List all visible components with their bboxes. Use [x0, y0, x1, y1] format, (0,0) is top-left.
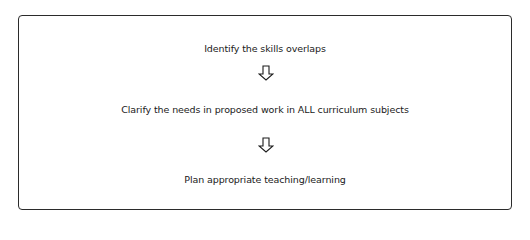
down-arrow-icon: [258, 137, 274, 153]
down-arrow-icon: [258, 65, 274, 81]
step-plan-teaching-learning: Plan appropriate teaching/learning: [18, 174, 512, 186]
step-identify-skills-overlaps: Identify the skills overlaps: [18, 43, 512, 55]
step-clarify-needs: Clarify the needs in proposed work in AL…: [18, 104, 512, 116]
